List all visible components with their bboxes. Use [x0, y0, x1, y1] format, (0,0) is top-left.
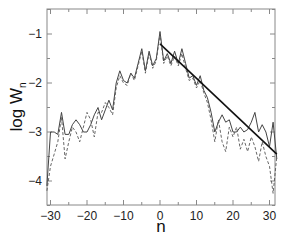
y-tick-label: −4: [28, 174, 42, 188]
x-tick-label: −30: [40, 209, 61, 223]
x-tick-label: −10: [113, 209, 134, 223]
chart: −30−20−100102030 −1−2−3−4 n log Wn: [0, 0, 282, 239]
y-axis-title: log Wn: [7, 82, 28, 131]
x-tick-label: 10: [190, 209, 204, 223]
x-tick-label: 30: [263, 209, 277, 223]
series-solid: [47, 32, 277, 186]
y-axis-title-sub: n: [17, 82, 28, 88]
x-tick-label: −20: [77, 209, 98, 223]
y-tick-label: −1: [28, 27, 42, 41]
y-tick-labels: −1−2−3−4: [28, 27, 42, 188]
x-axis-title: n: [156, 217, 165, 236]
y-tick-label: −2: [28, 76, 42, 90]
y-axis-title-main: log W: [7, 88, 26, 131]
x-tick-label: 20: [226, 209, 240, 223]
series-fit: [160, 44, 277, 154]
svg-text:log Wn: log Wn: [7, 82, 28, 131]
series-dashed: [47, 34, 277, 193]
data-series: [47, 32, 277, 194]
y-tick-label: −3: [28, 125, 42, 139]
